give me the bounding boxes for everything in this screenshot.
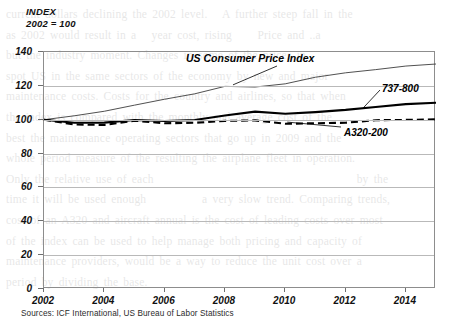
y-tick-mark	[38, 119, 43, 120]
source-note: Sources: ICF International, US Bureau of…	[21, 309, 234, 318]
index-heading-line2: 2002 = 100	[26, 18, 76, 30]
plot-area	[43, 51, 435, 288]
y-tick-label: 80	[0, 147, 32, 158]
x-tick-mark	[405, 288, 406, 292]
chart-axis-heading: INDEX 2002 = 100	[26, 6, 76, 29]
series-label-a320-200: A320-200	[344, 127, 388, 138]
y-tick-mark	[38, 51, 43, 52]
index-heading-line1: INDEX	[26, 6, 76, 18]
x-tick-label: 2002	[32, 295, 54, 306]
chart-figure: INDEX 2002 = 100 02040608010012014020022…	[0, 0, 457, 330]
y-tick-label: 100	[0, 113, 32, 124]
series-label-737-800: 737-800	[382, 83, 419, 94]
x-tick-label: 2012	[333, 295, 355, 306]
x-tick-mark	[345, 288, 346, 292]
y-tick-label: 140	[0, 46, 32, 57]
y-tick-label: 40	[0, 215, 32, 226]
y-tick-mark	[38, 186, 43, 187]
x-tick-mark	[164, 288, 165, 292]
x-tick-label: 2014	[394, 295, 416, 306]
x-tick-label: 2006	[152, 295, 174, 306]
gridline	[44, 187, 434, 188]
gridline	[44, 154, 434, 155]
x-tick-mark	[103, 288, 104, 292]
gridline	[44, 255, 434, 256]
y-tick-mark	[38, 220, 43, 221]
y-tick-mark	[38, 85, 43, 86]
x-tick-label: 2010	[273, 295, 295, 306]
y-tick-label: 0	[0, 283, 32, 294]
y-tick-label: 60	[0, 181, 32, 192]
y-tick-mark	[38, 254, 43, 255]
x-tick-mark	[43, 288, 44, 292]
x-tick-label: 2008	[213, 295, 235, 306]
series-label-cpi: US Consumer Price Index	[186, 52, 314, 64]
gridline	[44, 120, 434, 121]
y-tick-mark	[38, 153, 43, 154]
x-tick-mark	[284, 288, 285, 292]
y-tick-label: 20	[0, 249, 32, 260]
series-line-us-consumer-price-index	[44, 64, 436, 120]
x-tick-mark	[224, 288, 225, 292]
gridline	[44, 221, 434, 222]
gridline	[44, 86, 434, 87]
y-tick-label: 120	[0, 79, 32, 90]
series-lines	[44, 52, 436, 289]
x-tick-label: 2004	[92, 295, 114, 306]
